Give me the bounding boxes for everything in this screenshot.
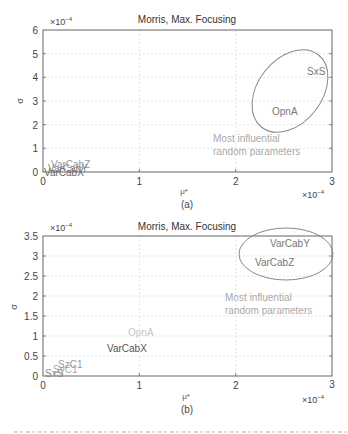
chart-b-y-ticks: 0 0.5 1 1.5 2 2.5 3 3.5 <box>24 231 38 382</box>
svg-text:0: 0 <box>32 371 38 382</box>
svg-text:1: 1 <box>137 380 143 391</box>
svg-text:2: 2 <box>32 120 38 131</box>
truncated-caption <box>14 428 348 434</box>
chart-b-panel-label: (b) <box>181 404 193 415</box>
chart-a-y-multiplier: ×10−4 <box>50 16 73 27</box>
svg-text:3: 3 <box>329 176 335 187</box>
svg-text:1.5: 1.5 <box>24 311 38 322</box>
svg-text:2.5: 2.5 <box>24 271 38 282</box>
point-label: OpnA <box>272 106 298 117</box>
chart-a-highlight-ellipse <box>236 35 343 147</box>
chart-b: Morris, Max. Focusing ×10−4 0 0.5 1 <box>9 221 335 415</box>
chart-b-xlabel: μ* <box>182 392 190 401</box>
svg-text:random parameters: random parameters <box>225 305 312 316</box>
svg-text:3: 3 <box>32 96 38 107</box>
point-label: VarCabX <box>44 167 84 178</box>
point-label: VarCabY <box>270 238 310 249</box>
point-label: VarCabZ <box>255 257 294 268</box>
svg-text:0: 0 <box>40 380 46 391</box>
chart-a-y-ticks: 0 1 2 3 4 5 6 <box>32 25 38 178</box>
svg-text:0: 0 <box>32 167 38 178</box>
svg-text:5: 5 <box>32 49 38 60</box>
svg-text:6: 6 <box>32 25 38 36</box>
chart-b-y-multiplier: ×10−4 <box>50 222 73 233</box>
svg-text:2: 2 <box>32 291 38 302</box>
svg-text:3: 3 <box>32 251 38 262</box>
chart-a: Morris, Max. Focusing ×10−4 0 1 2 <box>15 14 344 210</box>
chart-a-title: Morris, Max. Focusing <box>138 14 236 25</box>
point-label: OpnA <box>128 327 154 338</box>
svg-text:1: 1 <box>32 143 38 154</box>
point-label: VarCabX <box>107 343 147 354</box>
svg-text:2: 2 <box>233 176 239 187</box>
chart-b-title: Morris, Max. Focusing <box>138 221 236 232</box>
svg-text:1: 1 <box>137 176 143 187</box>
chart-a-panel-label: (a) <box>181 199 193 210</box>
svg-text:Most influential: Most influential <box>213 133 280 144</box>
svg-text:2: 2 <box>233 380 239 391</box>
chart-b-annotation: Most influential random parameters <box>225 292 312 316</box>
point-label: SxS <box>45 368 64 379</box>
svg-text:random parameters: random parameters <box>213 146 300 157</box>
svg-text:0.5: 0.5 <box>24 351 38 362</box>
chart-b-ylabel: σ <box>9 304 19 310</box>
svg-text:1: 1 <box>32 331 38 342</box>
figure-canvas: Morris, Max. Focusing ×10−4 0 1 2 <box>0 0 348 434</box>
svg-text:4: 4 <box>32 72 38 83</box>
svg-text:3.5: 3.5 <box>24 231 38 242</box>
chart-a-x-multiplier: ×10−4 <box>302 189 325 200</box>
svg-text:Most influential: Most influential <box>225 292 292 303</box>
chart-a-x-ticks: 0 1 2 3 <box>40 176 335 187</box>
chart-a-ylabel: σ <box>15 98 25 104</box>
chart-a-xlabel: μ* <box>180 187 188 196</box>
point-label: SxS <box>307 66 326 77</box>
chart-a-annotation: Most influential random parameters <box>213 133 300 157</box>
svg-text:3: 3 <box>329 379 335 390</box>
chart-b-x-ticks: 0 1 2 3 <box>40 379 335 391</box>
chart-a-point-labels: SxS OpnA VarCabZ VarCabY VarCabX <box>44 66 326 178</box>
chart-b-x-multiplier: ×10−4 <box>302 394 325 405</box>
